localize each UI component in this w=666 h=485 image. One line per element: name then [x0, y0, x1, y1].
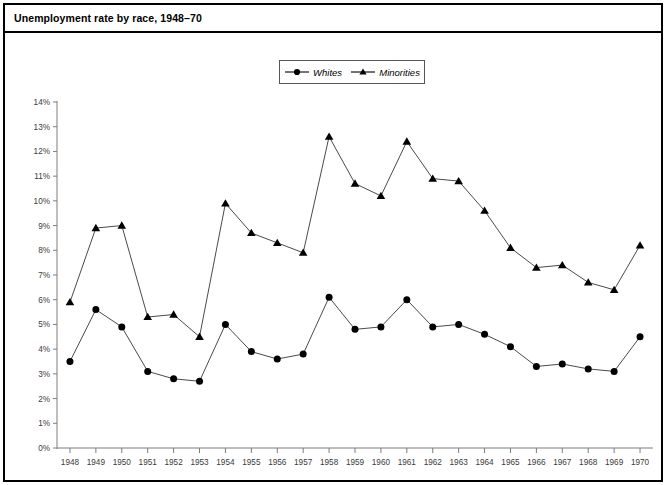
y-tick-label: 7% — [38, 271, 50, 280]
y-tick-label: 2% — [38, 395, 50, 404]
x-axis-ticks: 1948194919501951195219531954195519561957… — [61, 448, 650, 467]
data-point — [637, 333, 644, 340]
x-tick-label: 1967 — [553, 458, 572, 467]
data-point — [558, 261, 567, 268]
x-tick-label: 1966 — [527, 458, 546, 467]
data-point — [559, 360, 566, 367]
data-point — [455, 321, 462, 328]
data-point — [169, 310, 178, 317]
data-point — [66, 298, 75, 305]
data-point — [584, 278, 593, 285]
x-tick-label: 1970 — [631, 458, 650, 467]
data-point — [403, 296, 410, 303]
data-series-layer — [66, 132, 645, 384]
y-tick-label: 1% — [38, 419, 50, 428]
data-point — [507, 343, 514, 350]
x-tick-label: 1949 — [87, 458, 106, 467]
x-tick-label: 1958 — [320, 458, 339, 467]
x-tick-label: 1968 — [579, 458, 598, 467]
data-point — [170, 375, 177, 382]
figure-container: Unemployment rate by race, 1948–70 White… — [3, 3, 663, 482]
data-point — [66, 358, 73, 365]
data-point — [481, 331, 488, 338]
y-tick-label: 6% — [38, 296, 50, 305]
x-tick-label: 1964 — [475, 458, 494, 467]
page-title: Unemployment rate by race, 1948–70 — [5, 12, 202, 24]
y-tick-label: 14% — [34, 98, 50, 107]
data-point — [92, 306, 99, 313]
x-tick-label: 1960 — [372, 458, 391, 467]
data-point — [351, 179, 360, 186]
x-tick-label: 1965 — [501, 458, 520, 467]
y-tick-label: 4% — [38, 345, 50, 354]
data-point — [377, 192, 386, 199]
x-tick-label: 1961 — [398, 458, 417, 467]
x-tick-label: 1956 — [268, 458, 287, 467]
data-point — [585, 365, 592, 372]
data-point — [248, 348, 255, 355]
data-point — [221, 199, 230, 206]
x-tick-label: 1950 — [113, 458, 132, 467]
x-tick-label: 1955 — [242, 458, 261, 467]
data-point — [326, 294, 333, 301]
title-bar: Unemployment rate by race, 1948–70 — [5, 5, 661, 33]
data-point — [273, 239, 282, 246]
data-point — [533, 363, 540, 370]
y-tick-label: 0% — [38, 444, 50, 453]
data-point — [429, 323, 436, 330]
y-tick-label: 13% — [34, 123, 50, 132]
data-point — [274, 356, 281, 363]
data-point — [299, 249, 308, 256]
x-tick-label: 1963 — [450, 458, 469, 467]
data-point — [117, 221, 126, 228]
data-point — [428, 174, 437, 181]
y-tick-label: 5% — [38, 320, 50, 329]
data-point — [196, 378, 203, 385]
data-point — [222, 321, 229, 328]
x-tick-label: 1954 — [216, 458, 235, 467]
x-tick-label: 1969 — [605, 458, 624, 467]
x-tick-label: 1951 — [139, 458, 158, 467]
plot-area: 0%1%2%3%4%5%6%7%8%9%10%11%12%13%14% 1948… — [5, 33, 661, 480]
x-tick-label: 1957 — [294, 458, 313, 467]
x-tick-label: 1952 — [164, 458, 183, 467]
x-tick-label: 1962 — [424, 458, 443, 467]
x-tick-label: 1959 — [346, 458, 365, 467]
y-tick-label: 8% — [38, 246, 50, 255]
data-point — [636, 241, 645, 248]
data-point — [611, 368, 618, 375]
y-tick-label: 11% — [34, 172, 50, 181]
y-axis-ticks: 0%1%2%3%4%5%6%7%8%9%10%11%12%13%14% — [34, 98, 57, 453]
y-tick-label: 12% — [34, 147, 50, 156]
data-point — [300, 351, 307, 358]
y-tick-label: 9% — [38, 222, 50, 231]
line-chart: 0%1%2%3%4%5%6%7%8%9%10%11%12%13%14% 1948… — [5, 33, 661, 480]
series-minorities — [66, 132, 645, 339]
x-tick-label: 1953 — [190, 458, 209, 467]
x-tick-label: 1948 — [61, 458, 80, 467]
series-whites — [66, 294, 643, 385]
y-tick-label: 3% — [38, 370, 50, 379]
y-tick-label: 10% — [34, 197, 50, 206]
data-point — [118, 323, 125, 330]
data-point — [377, 323, 384, 330]
data-point — [352, 326, 359, 333]
data-point — [144, 368, 151, 375]
data-point — [325, 132, 334, 139]
data-point — [506, 244, 515, 251]
data-point — [403, 137, 412, 144]
